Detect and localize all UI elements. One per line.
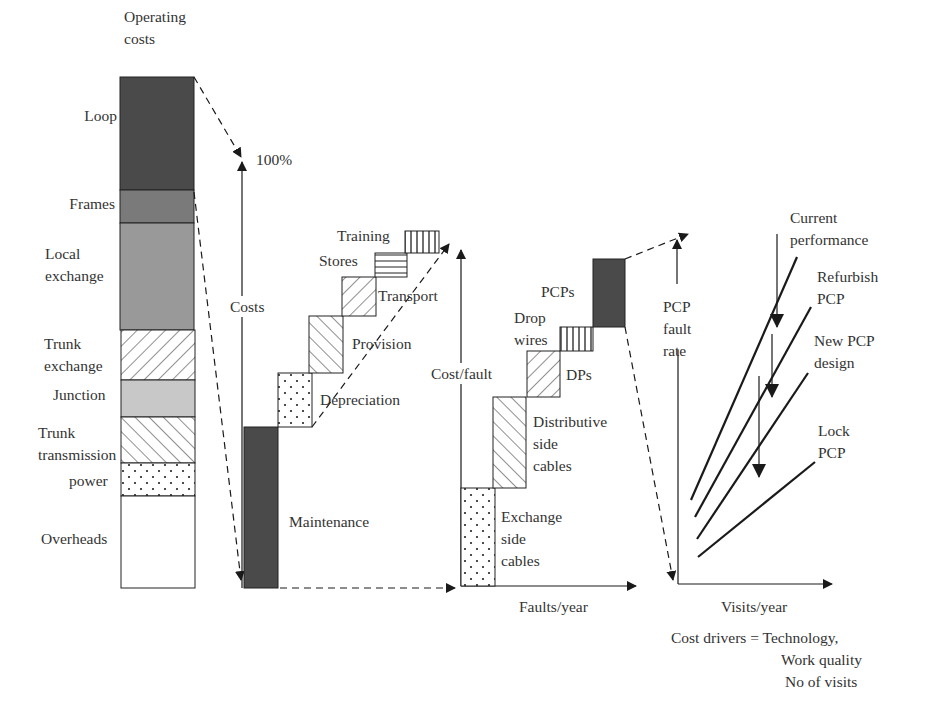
label-costs-axis: Costs	[229, 296, 265, 317]
label-pcps: PCPs	[541, 281, 575, 302]
label-faults-year-axis: Faults/year	[519, 596, 588, 617]
label-exchange-side-cables-line1: Exchange	[501, 506, 562, 527]
step-training	[405, 231, 439, 253]
segment-local-exchange	[120, 223, 194, 330]
label-loop: Loop	[84, 105, 117, 126]
step-transport	[342, 277, 376, 316]
connector-pcps-top	[625, 234, 688, 259]
segment-power	[121, 463, 195, 496]
label-distributive-side-cables-line1: Distributive	[533, 411, 607, 432]
connector-pcps-bottom	[625, 327, 673, 580]
step-provision	[309, 316, 343, 373]
label-refurbish-pcp-line1: Refurbish	[817, 266, 878, 287]
cost-drivers-line2: Work quality	[781, 649, 862, 670]
step-drop-wires	[560, 327, 593, 351]
step-distributive-side-cables	[493, 397, 526, 488]
segment-overheads	[121, 496, 195, 588]
cost-drivers-line1: Cost drivers = Technology,	[671, 627, 838, 648]
label-new-pcp-design-line1: New PCP	[814, 330, 875, 351]
label-dps: DPs	[566, 364, 592, 385]
label-new-pcp-design-line2: design	[814, 352, 854, 373]
label-power: power	[69, 470, 108, 491]
segment-trunk-exchange	[121, 330, 195, 380]
label-current-performance-line1: Current	[790, 207, 837, 228]
label-trunk-transmission-line1: Trunk	[38, 422, 75, 443]
label-exchange-side-cables-line2: side	[501, 528, 526, 549]
label-drop-wires-line2: wires	[514, 329, 548, 350]
line-current-performance	[691, 257, 797, 500]
label-drop-wires-line1: Drop	[514, 307, 546, 328]
label-provision: Provision	[352, 333, 411, 354]
step-pcps	[593, 259, 625, 327]
label-junction: Junction	[53, 384, 106, 405]
label-frames: Frames	[69, 193, 115, 214]
step-depreciation	[278, 373, 312, 427]
diagram-graphics	[0, 0, 927, 718]
label-trunk-exchange-line1: Trunk	[44, 333, 81, 354]
operating-costs-title-line2: costs	[124, 28, 155, 49]
label-exchange-side-cables-line3: cables	[501, 550, 540, 571]
operating-costs-title-line1: Operating	[124, 6, 186, 27]
label-pcp-fault-rate-line1: PCP	[663, 296, 691, 317]
label-lock-pcp-line1: Lock	[818, 420, 850, 441]
label-trunk-exchange-line2: exchange	[44, 355, 103, 376]
label-refurbish-pcp-line2: PCP	[817, 288, 845, 309]
cost-breakdown-diagram: Operating costs Loop Frames Local exchan…	[0, 0, 927, 718]
label-pcp-fault-rate-line2: fault	[663, 318, 691, 339]
cost-drivers-line3: No of visits	[785, 671, 857, 692]
label-distributive-side-cables-line2: side	[533, 433, 558, 454]
label-training: Training	[337, 225, 390, 246]
label-maintenance: Maintenance	[289, 511, 369, 532]
label-100-percent: 100%	[256, 149, 292, 170]
label-trunk-transmission-line2: transmission	[38, 444, 116, 465]
step-exchange-side-cables	[461, 488, 495, 586]
label-local-exchange-line2: exchange	[45, 265, 104, 286]
step-stores	[375, 253, 407, 277]
operating-costs-bar	[120, 77, 195, 588]
label-visits-year-axis: Visits/year	[721, 596, 787, 617]
segment-frames	[120, 190, 194, 223]
label-local-exchange-line1: Local	[45, 243, 80, 264]
label-cost-fault-axis: Cost/fault	[430, 363, 493, 384]
segment-junction	[121, 380, 195, 417]
segment-trunk-transmission	[121, 417, 195, 463]
step-dps	[527, 351, 560, 397]
segment-loop	[120, 77, 194, 190]
label-current-performance-line2: performance	[790, 229, 868, 250]
step-maintenance	[244, 427, 278, 588]
connector-loop-bottom	[194, 192, 241, 580]
label-pcp-fault-rate-line3: rate	[663, 340, 686, 361]
label-depreciation: Depreciation	[320, 389, 400, 410]
connector-loop-top	[194, 77, 241, 157]
line-refurbish-pcp	[695, 307, 811, 517]
label-stores: Stores	[319, 250, 358, 271]
label-overheads: Overheads	[41, 528, 107, 549]
label-transport: Transport	[378, 285, 438, 306]
label-lock-pcp-line2: PCP	[818, 442, 846, 463]
label-distributive-side-cables-line3: cables	[533, 455, 572, 476]
